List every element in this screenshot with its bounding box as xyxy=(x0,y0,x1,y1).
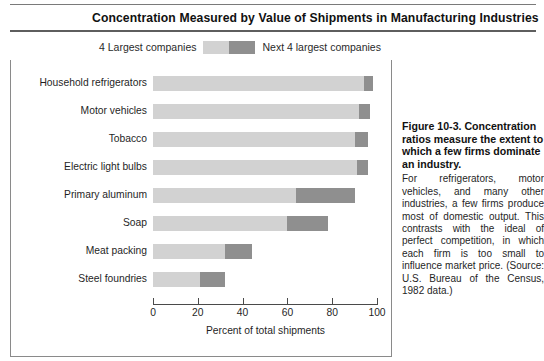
bar-segment xyxy=(153,132,355,147)
bar-row xyxy=(153,188,355,203)
category-label: Soap xyxy=(14,217,147,228)
caption-body: For refrigerators, motor vehicles, and m… xyxy=(402,173,544,297)
bar-row xyxy=(153,244,252,259)
category-label: Electric light bulbs xyxy=(14,161,147,172)
bar-segment xyxy=(200,272,225,287)
bar-segment xyxy=(225,244,252,259)
bar-segment xyxy=(296,188,354,203)
bar-segment xyxy=(153,216,287,231)
bar-row xyxy=(153,104,370,119)
bar-row xyxy=(153,76,373,91)
bar-row xyxy=(153,272,225,287)
category-axis-labels: Household refrigeratorsMotor vehiclesTob… xyxy=(14,72,147,304)
x-axis-title: Percent of total shipments xyxy=(153,325,378,336)
caption-heading: Figure 10-3. Concentration ratios measur… xyxy=(402,120,544,170)
x-axis-tick xyxy=(153,298,154,305)
bar-segment xyxy=(357,160,368,175)
legend-label-next-4-largest: Next 4 largest companies xyxy=(262,41,380,53)
legend-swatch-group xyxy=(203,41,255,54)
plot-area xyxy=(153,72,377,304)
category-label: Household refrigerators xyxy=(14,77,147,88)
category-label: Steel foundries xyxy=(14,273,147,284)
x-axis-tick-label: 40 xyxy=(237,307,248,318)
bar-row xyxy=(153,216,328,231)
x-axis-tick-label: 0 xyxy=(150,307,156,318)
category-label: Tobacco xyxy=(14,133,147,144)
bar-row xyxy=(153,132,368,147)
bar-segment xyxy=(287,216,327,231)
category-label: Motor vehicles xyxy=(14,105,147,116)
category-label: Primary aluminum xyxy=(14,189,147,200)
bar-segment xyxy=(153,160,357,175)
legend-label-4-largest: 4 Largest companies xyxy=(99,41,196,53)
x-axis-tick xyxy=(243,298,244,305)
x-axis-tick-label: 80 xyxy=(326,307,337,318)
x-axis-tick xyxy=(287,298,288,305)
chart-legend: 4 Largest companies Next 4 largest compa… xyxy=(99,40,381,54)
bar-segment xyxy=(355,132,368,147)
category-label: Meat packing xyxy=(14,245,147,256)
bar-segment xyxy=(359,104,370,119)
bar-segment xyxy=(364,76,373,91)
x-axis-tick xyxy=(377,298,378,305)
page-title: Concentration Measured by Value of Shipm… xyxy=(92,11,539,25)
bar-segment xyxy=(153,104,359,119)
bar-segment xyxy=(153,76,364,91)
bar-row xyxy=(153,160,368,175)
x-axis-tick-label: 20 xyxy=(192,307,203,318)
x-axis-tick-label: 60 xyxy=(282,307,293,318)
bar-segment xyxy=(153,244,225,259)
bar-segment xyxy=(153,272,200,287)
x-axis-tick-label: 100 xyxy=(368,307,385,318)
legend-swatch-next-4-largest xyxy=(229,41,255,54)
x-axis-line xyxy=(153,304,378,305)
figure-caption: Figure 10-3. Concentration ratios measur… xyxy=(402,120,544,297)
figure-title-bar: Concentration Measured by Value of Shipm… xyxy=(10,4,536,32)
legend-swatch-4-largest xyxy=(203,41,229,54)
bar-segment xyxy=(153,188,296,203)
x-axis-tick xyxy=(198,298,199,305)
x-axis-tick xyxy=(332,298,333,305)
